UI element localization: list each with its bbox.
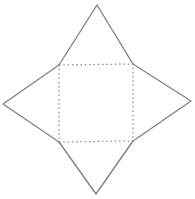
flap-triangle-top bbox=[59, 5, 133, 65]
flap-triangle-bottom bbox=[59, 141, 133, 194]
fold-square-dotted-outline bbox=[59, 64, 133, 142]
flap-triangle-right bbox=[133, 64, 191, 141]
pyramid-net-diagram bbox=[0, 0, 195, 199]
pyramid-net-figure bbox=[0, 0, 195, 199]
flap-triangle-left bbox=[3, 65, 59, 142]
